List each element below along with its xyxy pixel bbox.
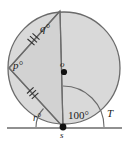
angle-label-100: 100° xyxy=(68,110,89,121)
geometry-svg xyxy=(0,0,127,144)
tangent-point-label-s: s xyxy=(60,131,64,140)
angle-label-q: q° xyxy=(40,23,50,34)
tangent-end-label-T: T xyxy=(107,108,113,119)
angle-label-p: p° xyxy=(13,60,23,71)
angle-label-r: r° xyxy=(33,113,41,123)
centre-point-marker xyxy=(61,69,67,75)
centre-label-o: o xyxy=(60,60,65,69)
geometry-figure: q° p° r° 100° o s T xyxy=(0,0,127,144)
